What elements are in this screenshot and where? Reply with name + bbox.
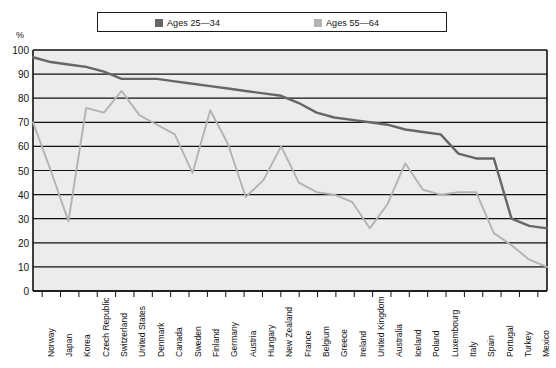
plot-area bbox=[0, 0, 556, 368]
chart-container: Ages 25—34 Ages 55—64 % 1009080706050403… bbox=[0, 0, 556, 368]
